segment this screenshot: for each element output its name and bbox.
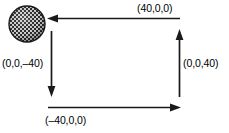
label-right-vector: (0,0,40) [183, 57, 218, 69]
arrow-left [48, 31, 56, 97]
label-top-vector: (40,0,0) [137, 2, 172, 14]
arrow-bottom [48, 104, 181, 112]
arrow-top [47, 15, 180, 23]
label-left-vector: (0,0,–40) [2, 57, 43, 69]
translation-path-diagram: (40,0,0) (0,0,–40) (0,0,40) (–40,0,0) [0, 0, 229, 133]
label-bottom-vector: (–40,0,0) [45, 114, 86, 126]
textured-sphere [9, 6, 45, 42]
